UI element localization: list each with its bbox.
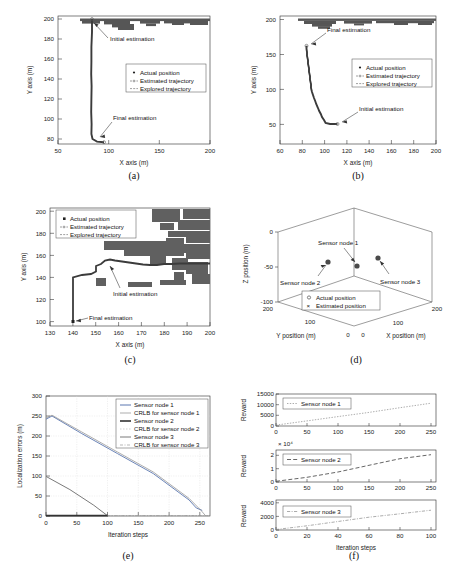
panel-f-sub1-xticks: 0 50 100 150 200 250	[274, 423, 436, 435]
panel-e-ytick-3: 150	[32, 452, 43, 459]
panel-e-legend: Sensor node 1 CRLB for sensor node 1 Sen…	[116, 399, 208, 448]
panel-e-legend-5: CRLB for sensor node 3	[134, 441, 200, 448]
panel-a-label: (a)	[104, 170, 164, 181]
panel-f-sub1-legend: Sensor node 1	[283, 398, 351, 409]
panel-e-yticks: 0 50 100 150 200 250 300	[32, 392, 50, 519]
panel-e-xtick-4: 200	[164, 519, 175, 526]
panel-a-annotation-final-text: Final estimation	[113, 114, 157, 121]
panel-f-sub1-yticks: 0 5000 10000 15000	[257, 390, 279, 429]
panel-a-ytick-2: 120	[44, 95, 55, 102]
panel-a-ytick-4: 160	[44, 55, 55, 62]
panel-b-xtick-1: 80	[299, 147, 306, 154]
panel-d-label: (d)	[326, 354, 386, 365]
panel-e-xticks: 0 50 100 150 200 250	[44, 512, 205, 526]
panel-d-node3-annotation: Sensor node 3	[380, 261, 421, 285]
figure-root: 50 100 150 200 80 100 120	[0, 0, 453, 588]
panel-f-sub1-xtick-1: 50	[304, 428, 311, 435]
panel-a-explored-trajectory	[80, 19, 210, 31]
panel-e-xlabel: Iteration steps	[108, 531, 148, 539]
panel-f-sub3-xtick-3: 60	[366, 532, 373, 539]
panel-b-ytick-0: 50	[269, 121, 276, 128]
panel-c-ylabel: Y axis (m)	[20, 253, 28, 282]
panel-b-annotation-final-text: Final estimation	[327, 26, 371, 33]
panel-d-node1-label: Sensor node 1	[318, 239, 359, 246]
panel-d-xlabel: X position (m)	[386, 332, 425, 340]
panel-f-sub3-xtick-4: 80	[397, 532, 404, 539]
panel-c-xlabel: X axis (m)	[116, 341, 145, 349]
panel-a-xticks: 50 100 150 200	[55, 140, 216, 154]
panel-e-ytick-0: 0	[39, 512, 43, 519]
panel-c-xtick-0: 130	[45, 329, 56, 336]
panel-b-estimated-trajectory	[307, 46, 338, 124]
panel-f-subplot-1: 0 5000 10000 15000 0 50 100 150 200	[240, 390, 437, 435]
panel-a-legend-0: Actual position	[140, 69, 180, 76]
panel-f-sub3-xtick-1: 20	[304, 532, 311, 539]
panel-b: 60 80 100 120 140 160 180 200 50 100	[226, 2, 453, 174]
panel-f-sub2-xtick-4: 200	[395, 484, 406, 491]
panel-f-sub2-xtick-2: 100	[333, 484, 344, 491]
panel-f-sub1-xtick-3: 150	[364, 428, 375, 435]
panel-c-label: (c)	[100, 354, 160, 365]
panel-b-ytick-2: 150	[266, 51, 277, 58]
panel-c-plot: 130 140 150 160 170 180 190 200	[20, 208, 216, 350]
panel-e-xtick-5: 250	[195, 519, 206, 526]
panel-b-annotation-initial-text: Initial estimation	[359, 105, 404, 112]
panel-c-yticks: 100 120 140 160 180 200	[36, 208, 54, 325]
panel-f-sub1-legend-label: Sensor node 1	[301, 400, 341, 407]
panel-d-ytick-2: 0	[346, 331, 350, 338]
panel-b-ylabel: Y axis (m)	[250, 66, 258, 95]
panel-b-yticks: 50 100 150 200	[266, 16, 284, 128]
panel-d-legend: Actual position × Estimated position	[302, 291, 380, 310]
panel-b-xtick-6: 180	[409, 147, 420, 154]
panel-e-legend-1: CRLB for sensor node 1	[134, 409, 200, 416]
panel-c-annotation-initial: Initial estimation	[110, 266, 158, 297]
panel-f-sub2-scale-label: × 10⁴	[278, 440, 293, 447]
panel-f-sub3-xticks: 0 20 40 60 80 100	[274, 527, 436, 539]
panel-c-ytick-2: 140	[36, 274, 47, 281]
panel-d-xtick-0: 0	[361, 331, 365, 338]
panel-b-legend-1: Estimated trajectory	[366, 72, 421, 79]
panel-d-node3-label: Sensor node 3	[380, 278, 421, 285]
panel-b-plot: 60 80 100 120 140 160 180 200 50 100	[250, 16, 442, 167]
panel-a-xtick-0: 50	[55, 147, 62, 154]
panel-b-ytick-3: 200	[266, 16, 277, 23]
panel-c-xtick-5: 180	[159, 329, 170, 336]
panel-c-annotation-initial-text: Initial estimation	[113, 290, 158, 297]
panel-b-annotation-initial: Initial estimation	[342, 105, 404, 124]
panel-b-xtick-7: 200	[431, 147, 442, 154]
panel-f-sub1-xtick-2: 100	[333, 428, 344, 435]
panel-d-node2-label: Sensor node 2	[280, 279, 321, 286]
panel-f-sub3-xtick-2: 40	[335, 532, 342, 539]
panel-f-subplot-3: 0 2000 4000 0 20 40 60 80 100	[240, 499, 437, 552]
panel-a-ytick-0: 80	[47, 135, 54, 142]
panel-c-actual-marker	[72, 320, 75, 323]
panel-c-xtick-1: 140	[68, 329, 79, 336]
panel-f-sub2-xtick-5: 250	[426, 484, 437, 491]
panel-d-node2-annotation: Sensor node 2	[280, 265, 326, 286]
panel-b-xtick-4: 140	[364, 147, 375, 154]
panel-f-sub2-ytick-1: 1	[271, 465, 275, 472]
panel-e: 0 50 100 150 200 250 0 50	[0, 382, 226, 558]
panel-d-ylabel: Y position (m)	[276, 332, 315, 340]
panel-a-ytick-1: 100	[44, 115, 55, 122]
panel-f-sub2-ylabel: Reward	[240, 455, 247, 477]
panel-f-sub1-ytick-3: 15000	[257, 390, 275, 397]
panel-e-legend-0: Sensor node 1	[134, 401, 174, 408]
panel-d-node1-annotation: Sensor node 1	[318, 239, 359, 262]
panel-a-annotation-final: Final estimation	[100, 114, 157, 138]
panel-f-sub1-xtick-5: 250	[426, 428, 437, 435]
panel-f-sub1-ylabel: Reward	[240, 399, 247, 421]
panel-f-sub3-ylabel: Reward	[240, 505, 247, 527]
panel-c-xtick-3: 160	[113, 329, 124, 336]
panel-a-xtick-3: 200	[205, 147, 216, 154]
panel-e-ylabel: Localization errors (m)	[16, 424, 24, 488]
panel-f-label: (f)	[324, 550, 384, 561]
panel-d-xtick-1b: 100	[393, 319, 404, 326]
panel-d-zlabel: Z position (m)	[242, 244, 250, 283]
panel-e-legend-2: Sensor node 2	[134, 417, 174, 424]
panel-a-xtick-2: 150	[154, 147, 165, 154]
panel-f-sub2-legend: Sensor node 2	[283, 454, 351, 465]
panel-c-ytick-3: 160	[36, 252, 47, 259]
panel-f-sub2-yticks: 0 1 2	[271, 451, 279, 485]
panel-f-subplot-2: × 10⁴ 0 1 2 0 50	[240, 440, 437, 491]
